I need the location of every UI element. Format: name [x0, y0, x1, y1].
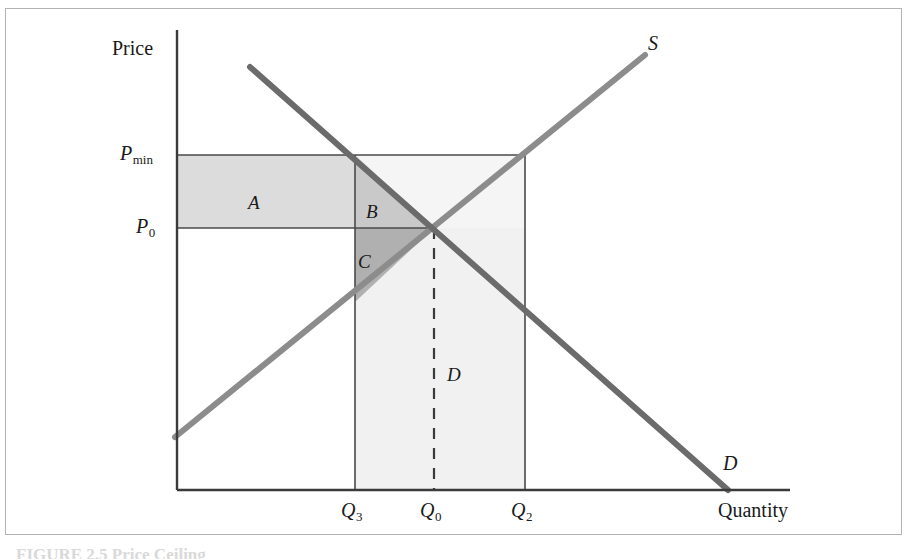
- p-zero-base: P: [136, 215, 148, 237]
- p-min-tick-label: Pmin: [120, 143, 153, 166]
- p-min-subscript: min: [132, 152, 153, 167]
- y-axis-title: Price: [112, 38, 153, 58]
- demand-curve-label: D: [723, 453, 737, 473]
- p-min-base: P: [120, 142, 132, 164]
- figure-root: Price Quantity Pmin P0 Q3 Q0 Q2 S D A B …: [0, 0, 908, 560]
- q2-subscript: 2: [525, 509, 532, 524]
- figure-caption-partial: FIGURE 2.5 Price Ceiling: [16, 545, 616, 559]
- region-d-label: D: [447, 365, 461, 384]
- q0-base: Q: [420, 499, 434, 521]
- q2-base: Q: [511, 499, 525, 521]
- p-zero-tick-label: P0: [136, 216, 155, 239]
- supply-demand-plot: [0, 0, 908, 560]
- p-zero-subscript: 0: [148, 225, 155, 240]
- supply-curve-label: S: [648, 33, 658, 53]
- region-a-shape: [177, 155, 355, 228]
- region-b-label: B: [366, 202, 378, 221]
- x-axis-title: Quantity: [718, 500, 788, 520]
- region-c-label: C: [358, 252, 371, 271]
- q3-subscript: 3: [355, 509, 362, 524]
- q2-tick-label: Q2: [511, 500, 532, 523]
- q3-tick-label: Q3: [341, 500, 362, 523]
- region-a-label: A: [248, 193, 260, 212]
- q3-base: Q: [341, 499, 355, 521]
- q0-subscript: 0: [434, 509, 441, 524]
- q0-tick-label: Q0: [420, 500, 441, 523]
